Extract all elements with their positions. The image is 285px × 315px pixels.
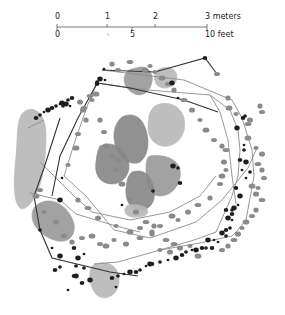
post-hole-gray bbox=[103, 243, 110, 248]
post-hole-dark bbox=[87, 278, 93, 283]
post-hole-gray bbox=[249, 183, 256, 188]
post-hole-dark bbox=[61, 177, 64, 180]
post-hole-dark bbox=[38, 113, 42, 116]
post-hole-dark bbox=[73, 274, 79, 279]
post-hole-gray bbox=[79, 236, 85, 240]
post-hole-gray bbox=[159, 75, 166, 80]
post-hole-gray bbox=[214, 72, 220, 76]
post-hole-dark bbox=[45, 108, 51, 113]
post-hole-dark bbox=[230, 212, 235, 216]
post-hole-gray bbox=[163, 238, 170, 242]
post-hole-gray bbox=[247, 117, 253, 122]
post-hole-gray bbox=[185, 209, 191, 214]
post-hole-dark bbox=[224, 234, 228, 237]
post-hole-dark bbox=[151, 189, 155, 192]
post-hole-dark bbox=[104, 79, 107, 82]
post-hole-dark bbox=[70, 96, 75, 100]
pit-feature-light bbox=[148, 103, 185, 146]
post-hole-gray bbox=[223, 148, 230, 152]
post-hole-gray bbox=[253, 146, 258, 150]
post-hole-gray bbox=[157, 224, 163, 228]
post-hole-gray bbox=[89, 98, 94, 102]
post-hole-dark bbox=[72, 246, 77, 250]
post-hole-dark bbox=[243, 144, 246, 147]
post-hole-dark bbox=[169, 81, 175, 86]
post-hole-gray bbox=[255, 162, 262, 166]
post-hole-gray bbox=[197, 118, 202, 122]
post-hole-gray bbox=[207, 195, 212, 200]
post-hole-gray bbox=[147, 64, 152, 68]
post-hole-dark bbox=[203, 56, 208, 60]
post-hole-dark bbox=[176, 166, 180, 169]
post-hole-dark bbox=[178, 181, 183, 185]
post-hole-dark bbox=[167, 259, 170, 262]
post-hole-gray bbox=[81, 106, 88, 110]
post-hole-dark bbox=[51, 247, 54, 250]
post-hole-gray bbox=[221, 159, 227, 164]
post-hole-gray bbox=[171, 87, 176, 92]
post-hole-dark bbox=[243, 160, 249, 165]
post-hole-gray bbox=[217, 182, 223, 186]
meter-label: 2 bbox=[153, 13, 158, 21]
structure-outlines bbox=[28, 58, 256, 276]
post-hole-gray bbox=[259, 167, 264, 172]
post-hole-gray bbox=[253, 191, 259, 196]
post-hole-dark bbox=[231, 206, 237, 211]
post-hole-gray bbox=[171, 242, 178, 246]
post-hole-dark bbox=[200, 246, 205, 250]
post-hole-gray bbox=[127, 60, 134, 64]
post-hole-dark bbox=[213, 239, 216, 242]
post-hole-gray bbox=[152, 70, 157, 74]
post-hole-gray bbox=[142, 67, 148, 72]
post-hole-dark bbox=[224, 208, 229, 212]
post-hole-dark bbox=[59, 103, 62, 106]
post-hole-dark bbox=[248, 170, 252, 173]
post-hole-dark bbox=[177, 97, 180, 100]
post-hole-dark bbox=[173, 256, 179, 261]
post-hole-gray bbox=[225, 95, 230, 100]
post-hole-dark bbox=[57, 198, 63, 203]
post-hole-dark bbox=[110, 276, 115, 280]
post-hole-dark bbox=[69, 105, 72, 108]
post-hole-gray bbox=[243, 219, 250, 224]
post-hole-dark bbox=[116, 274, 120, 277]
post-hole-gray bbox=[189, 107, 195, 112]
post-hole-dark bbox=[217, 241, 220, 244]
post-hole-gray bbox=[235, 231, 241, 236]
post-hole-gray bbox=[61, 234, 68, 238]
post-hole-gray bbox=[239, 226, 244, 230]
post-hole-dark bbox=[123, 273, 126, 276]
post-hole-gray bbox=[223, 168, 228, 172]
post-hole-dark bbox=[205, 238, 211, 243]
post-hole-gray bbox=[127, 198, 132, 202]
post-hole-gray bbox=[261, 176, 267, 180]
post-hole-dark bbox=[170, 164, 176, 169]
minor-tick-mark bbox=[107, 33, 109, 36]
post-hole-dark bbox=[241, 169, 244, 172]
post-hole-dark bbox=[242, 148, 246, 151]
post-hole-gray bbox=[115, 157, 120, 162]
post-hole-dark bbox=[74, 264, 78, 267]
post-hole-gray bbox=[245, 122, 252, 126]
post-hole-gray bbox=[115, 68, 121, 72]
post-hole-dark bbox=[237, 204, 240, 207]
post-hole-dark bbox=[225, 216, 231, 221]
post-hole-gray bbox=[133, 209, 139, 214]
post-hole-gray bbox=[103, 143, 109, 148]
post-hole-gray bbox=[113, 168, 119, 172]
feet-label: 5 bbox=[130, 31, 135, 39]
post-hole-dark bbox=[237, 194, 243, 199]
post-hole-gray bbox=[259, 110, 265, 114]
post-hole-dark bbox=[224, 228, 229, 232]
post-hole-gray bbox=[231, 238, 238, 242]
post-hole-gray bbox=[75, 132, 81, 136]
post-hole-dark bbox=[238, 158, 243, 162]
post-hole-dark bbox=[158, 260, 162, 263]
post-hole-gray bbox=[181, 98, 188, 102]
post-hole-gray bbox=[259, 198, 266, 202]
post-hole-gray bbox=[97, 242, 103, 246]
post-hole-gray bbox=[249, 214, 255, 218]
post-hole-dark bbox=[97, 77, 103, 82]
post-hole-dark bbox=[121, 204, 124, 207]
post-hole-dark bbox=[66, 98, 70, 101]
